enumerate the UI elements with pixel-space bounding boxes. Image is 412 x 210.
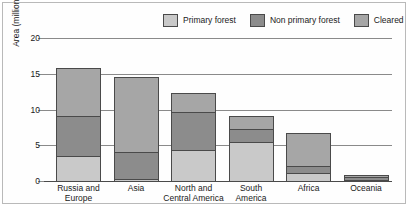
bar-south-america[interactable] (229, 116, 274, 181)
y-tick-label-5: 5 (10, 141, 40, 150)
bar-asia[interactable] (114, 77, 159, 181)
bar-segment-cleared (171, 93, 216, 113)
bar-north-and-central-america[interactable] (171, 93, 216, 182)
y-tick-label-20: 20 (10, 34, 40, 43)
bar-segment-cleared (286, 133, 331, 167)
bar-segment-primary-forest (171, 150, 216, 182)
chart-frame: Primary forest Non primary forest Cleare… (2, 2, 406, 204)
legend-label-non-primary-forest: Non primary forest (270, 16, 340, 25)
bar-segment-non-primary-forest (171, 112, 216, 151)
bar-russia-and-europe[interactable] (56, 68, 101, 181)
gridline-20 (44, 38, 392, 39)
bar-segment-non-primary-forest (114, 152, 159, 180)
legend-label-primary-forest: Primary forest (183, 16, 236, 25)
bar-segment-primary-forest (229, 142, 274, 182)
bar-segment-cleared (56, 68, 101, 117)
chart-legend: Primary forest Non primary forest Cleare… (163, 12, 404, 28)
y-tick-label-10: 10 (10, 106, 40, 115)
bar-segment-primary-forest (286, 173, 331, 182)
legend-swatch-cleared (354, 14, 369, 27)
x-axis-label-oceania: Oceania (333, 184, 400, 194)
y-tick-label-15: 15 (10, 70, 40, 79)
bar-segment-cleared (229, 116, 274, 130)
x-axis-label-line: Oceania (333, 184, 400, 194)
bar-segment-primary-forest (344, 180, 389, 182)
x-axis-label-line: America (218, 194, 285, 204)
y-tick-label-0: 0 (10, 177, 40, 186)
x-axis-label-line: Europe (45, 194, 112, 204)
bar-segment-non-primary-forest (56, 116, 101, 157)
bar-oceania[interactable] (344, 175, 389, 181)
legend-item-primary-forest: Primary forest (163, 14, 236, 27)
legend-item-cleared: Cleared (354, 14, 404, 27)
bar-segment-cleared (114, 77, 159, 154)
bar-segment-primary-forest (56, 156, 101, 182)
bar-africa[interactable] (286, 133, 331, 181)
legend-swatch-non-primary-forest (250, 14, 265, 27)
bar-segment-primary-forest (114, 179, 159, 182)
legend-label-cleared: Cleared (374, 16, 404, 25)
plot-area: 20151050 (44, 38, 392, 181)
legend-swatch-primary-forest (163, 14, 178, 27)
legend-item-non-primary-forest: Non primary forest (250, 14, 340, 27)
bar-segment-non-primary-forest (229, 129, 274, 143)
